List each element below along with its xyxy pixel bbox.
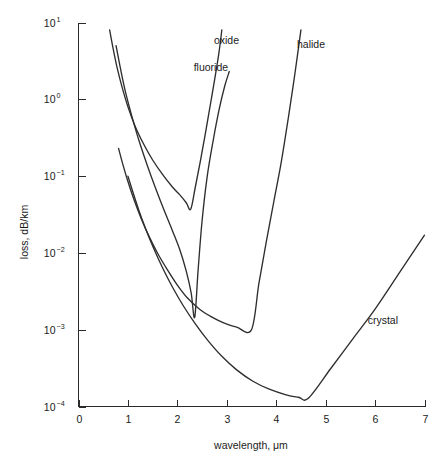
loss-vs-wavelength-chart: 10110010−110−210−310−4 01234567 oxideflu…	[0, 0, 441, 456]
x-tick-label: 1	[126, 413, 132, 425]
y-axis-tick-labels: 10110010−110−210−310−4	[44, 15, 65, 413]
axes-group	[79, 23, 425, 407]
data-curves-group	[110, 30, 425, 400]
y-axis-ticks	[79, 24, 86, 408]
svg-text:10: 10	[44, 247, 56, 259]
y-tick-label: 101	[44, 15, 61, 29]
x-tick-label: 6	[373, 413, 379, 425]
y-axis-title: loss, dB/km	[18, 205, 30, 260]
y-tick-label: 10−3	[44, 322, 65, 336]
y-tick-label: 10−1	[44, 168, 65, 182]
figure-container: 10110010−110−210−310−4 01234567 oxideflu…	[0, 0, 441, 456]
x-tick-label: 3	[225, 413, 231, 425]
svg-text:10: 10	[44, 93, 56, 105]
svg-text:10: 10	[44, 170, 56, 182]
curve-halide	[119, 30, 301, 333]
svg-text:1: 1	[57, 15, 61, 24]
y-tick-label: 100	[44, 91, 61, 105]
y-tick-label: 10−2	[44, 245, 65, 259]
x-tick-label: 4	[274, 413, 280, 425]
svg-text:−3: −3	[57, 322, 65, 331]
svg-text:10: 10	[44, 324, 56, 336]
svg-text:10: 10	[44, 17, 56, 29]
svg-text:0: 0	[57, 91, 61, 100]
curve-oxide	[110, 30, 222, 210]
x-axis-ticks	[80, 400, 426, 407]
x-tick-label: 7	[423, 413, 429, 425]
curve-label-oxide: oxide	[214, 34, 239, 46]
curve-label-fluoride: fluoride	[194, 61, 229, 73]
curve-label-crystal: crystal	[368, 314, 398, 326]
svg-text:−2: −2	[57, 245, 65, 254]
x-tick-label: 5	[324, 413, 330, 425]
curve-annotations-group: oxidefluoridehalidecrystal	[194, 34, 398, 326]
svg-text:−1: −1	[57, 168, 65, 177]
x-tick-label: 0	[77, 413, 83, 425]
y-tick-label: 10−4	[44, 399, 65, 413]
svg-text:−4: −4	[57, 399, 65, 408]
x-tick-label: 2	[175, 413, 181, 425]
x-axis-tick-labels: 01234567	[77, 413, 429, 425]
x-axis-title: wavelength, μm	[213, 439, 288, 451]
curve-crystal	[128, 176, 425, 400]
curve-label-halide: halide	[297, 38, 325, 50]
svg-text:10: 10	[44, 401, 56, 413]
